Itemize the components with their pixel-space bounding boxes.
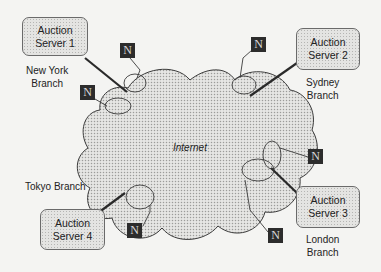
network-node-icon: N xyxy=(120,43,135,58)
internet-label: Internet xyxy=(173,142,207,153)
tokyo-branch-label: Tokyo Branch xyxy=(25,181,86,194)
server-3-line1: Auction xyxy=(310,194,345,207)
server-2-line1: Auction xyxy=(310,36,345,49)
london-branch-label: London Branch xyxy=(306,234,339,259)
branch-1-line1: New York xyxy=(26,65,68,78)
server-4-line2: Server 4 xyxy=(53,230,93,243)
network-node-icon: N xyxy=(308,149,323,164)
new-york-branch-label: New York Branch xyxy=(26,65,68,90)
server-1-line2: Server 1 xyxy=(35,37,75,50)
network-node-icon: N xyxy=(127,223,142,238)
server-4-line1: Auction xyxy=(55,217,90,230)
branch-3-line1: London xyxy=(306,234,339,247)
server-2-line2: Server 2 xyxy=(308,49,348,62)
branch-2-line2: Branch xyxy=(306,90,339,103)
network-node-icon: N xyxy=(80,85,95,100)
sydney-branch-label: Sydney Branch xyxy=(306,77,339,102)
network-node-icon: N xyxy=(268,228,283,243)
auction-server-1: Auction Server 1 xyxy=(22,17,88,56)
branch-2-line1: Sydney xyxy=(306,77,339,90)
node-line-1 xyxy=(130,58,140,78)
server-1-line1: Auction xyxy=(37,24,72,37)
auction-server-4: Auction Server 4 xyxy=(40,209,105,250)
branch-1-line2: Branch xyxy=(26,78,68,91)
network-node-icon: N xyxy=(251,37,266,52)
auction-server-3: Auction Server 3 xyxy=(296,186,360,228)
server-3-line2: Server 3 xyxy=(308,207,348,220)
branch-4-line1: Tokyo Branch xyxy=(25,181,86,194)
branch-3-line2: Branch xyxy=(306,247,339,260)
auction-server-2: Auction Server 2 xyxy=(296,28,360,70)
network-diagram: Internet Auction Server 1 New York Branc… xyxy=(0,0,381,272)
